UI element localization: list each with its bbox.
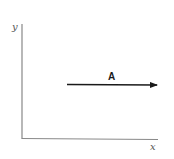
- vector-diagram: y x A: [0, 0, 174, 159]
- x-axis-label: x: [150, 141, 156, 152]
- vector-a-label: A: [108, 71, 115, 82]
- x-axis: [22, 139, 159, 140]
- y-axis-label: y: [11, 21, 18, 32]
- vector-a-arrow: [67, 85, 157, 86]
